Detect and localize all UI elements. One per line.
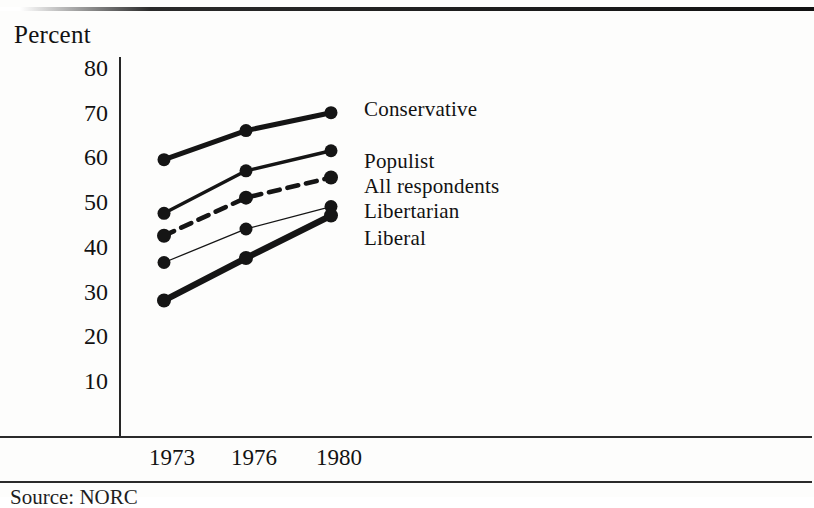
data-point [158,207,171,220]
series-line [164,207,331,263]
data-point [157,294,171,308]
y-tick-60: 60 [45,145,108,169]
legend-item-libertarian: Libertarian [364,201,459,222]
y-tick-80: 80 [45,56,108,80]
data-point [240,222,253,235]
y-tick-label: 40 [45,235,108,259]
data-point [325,144,338,157]
series-libertarian [158,200,338,269]
data-point [157,229,171,243]
y-tick-label: 80 [45,56,108,80]
legend-item-liberal: Liberal [364,228,426,249]
legend-item-populist: Populist [364,151,434,172]
data-point [240,124,253,137]
data-point [324,209,338,223]
series-conservative [158,106,338,166]
legend: ConservativePopulistAll respondentsLiber… [364,0,664,497]
x-tick-1973: 1973 [149,446,195,469]
data-point [325,106,338,119]
y-tick-30: 30 [45,280,108,304]
y-tick-10: 10 [45,369,108,393]
series-line [164,178,331,236]
legend-item-conservative: Conservative [364,99,477,120]
data-point [325,200,338,213]
source-note: Source: NORC [10,487,138,508]
x-tick-1980: 1980 [316,446,362,469]
legend-item-all-respondents: All respondents [364,176,499,197]
x-tick-1976: 1976 [231,446,277,469]
series-populist [158,144,338,220]
y-tick-label: 30 [45,280,108,304]
series-all-respondents [157,171,338,243]
data-point [240,164,253,177]
data-point [239,251,253,265]
y-tick-40: 40 [45,235,108,259]
y-tick-50: 50 [45,190,108,214]
y-tick-70: 70 [45,101,108,125]
series-line [164,151,331,214]
series-line [164,113,331,160]
data-point [324,171,338,185]
data-point [158,153,171,166]
y-tick-label: 50 [45,190,108,214]
series-liberal [157,209,338,308]
y-tick-20: 20 [45,324,108,348]
y-axis-line [119,57,121,437]
series-line [164,216,331,301]
data-point [239,191,253,205]
y-tick-label: 20 [45,324,108,348]
data-point [158,256,171,269]
y-tick-label: 60 [45,145,108,169]
y-tick-label: 70 [45,101,108,125]
y-tick-label: 10 [45,369,108,393]
